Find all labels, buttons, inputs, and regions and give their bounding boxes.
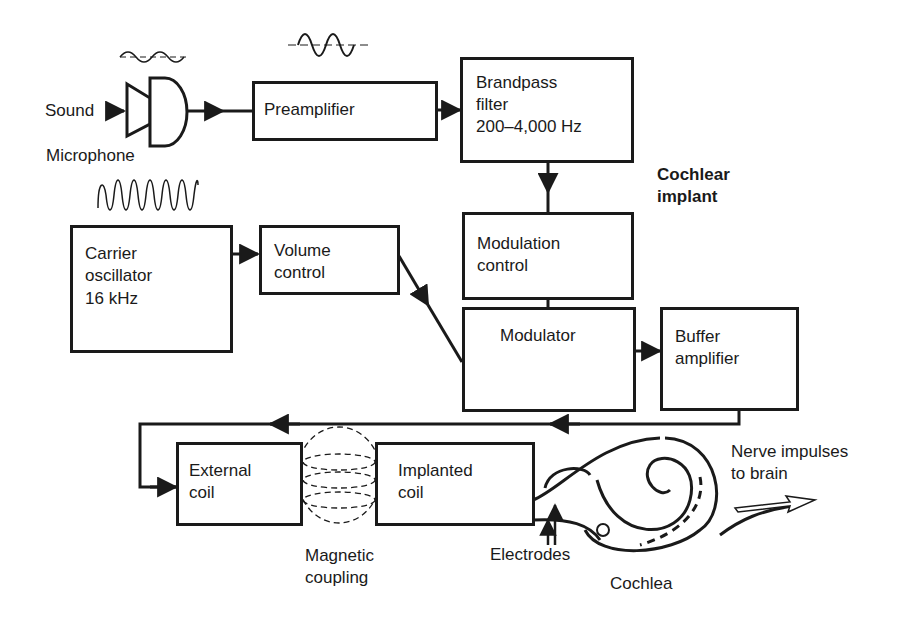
volume-control-label-2: control — [274, 262, 325, 284]
carrier-oscillator-label-3: 16 kHz — [85, 288, 138, 310]
volume-control-label-1: Volume — [274, 240, 331, 262]
volume-control-block: Volume control — [259, 225, 400, 295]
nerve-impulses-label-2: to brain — [731, 463, 788, 485]
microphone-icon — [127, 78, 187, 146]
implanted-coil-label-2: coil — [398, 482, 424, 504]
magnetic-coupling-label-1: Magnetic — [305, 545, 374, 567]
electrodes-label: Electrodes — [490, 544, 570, 566]
sound-label: Sound — [45, 100, 94, 122]
carrier-oscillator-label-1: Carrier — [85, 243, 137, 265]
modulator-block: Modulator — [462, 307, 636, 412]
nerve-impulses-label-1: Nerve impulses — [731, 441, 848, 463]
implanted-coil-block: Implanted coil — [375, 442, 535, 526]
buffer-amplifier-block: Buffer amplifier — [660, 307, 799, 411]
microphone-label: Microphone — [46, 145, 135, 167]
preamplifier-label: Preamplifier — [264, 99, 355, 121]
diagram-title-line-2: implant — [657, 186, 717, 208]
modulation-control-block: Modulation control — [462, 212, 634, 300]
bandpass-filter-label-2: filter — [476, 94, 508, 116]
carrier-oscillator-label-2: oscillator — [85, 265, 152, 287]
carrier-wave-icon — [98, 180, 198, 210]
diagram-title-line-1: Cochlear — [657, 164, 730, 186]
buffer-amplifier-label-2: amplifier — [675, 348, 739, 370]
modulator-label: Modulator — [500, 325, 576, 347]
carrier-oscillator-block: Carrier oscillator 16 kHz — [70, 225, 233, 353]
preamplifier-block: Preamplifier — [252, 81, 438, 141]
cochlea-label: Cochlea — [610, 573, 672, 595]
bandpass-filter-label-3: 200–4,000 Hz — [476, 116, 582, 138]
buffer-amplifier-label-1: Buffer — [675, 326, 720, 348]
external-coil-label-1: External — [189, 460, 251, 482]
external-coil-label-2: coil — [189, 482, 215, 504]
magnetic-field-icon — [297, 427, 381, 523]
bandpass-filter-label-1: Brandpass — [476, 72, 557, 94]
external-coil-block: External coil — [176, 442, 303, 526]
bandpass-filter-block: Brandpass filter 200–4,000 Hz — [460, 57, 634, 163]
implanted-coil-label-1: Implanted — [398, 460, 473, 482]
modulation-control-label-1: Modulation — [477, 233, 560, 255]
magnetic-coupling-label-2: coupling — [305, 567, 368, 589]
modulation-control-label-2: control — [477, 255, 528, 277]
